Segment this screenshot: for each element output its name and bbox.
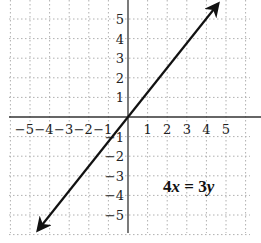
y-tick-label: 5 [116, 12, 124, 27]
x-tick-label: 1 [143, 122, 151, 137]
y-tick-label: −4 [105, 188, 124, 203]
x-tick-label: −4 [34, 122, 53, 137]
equation-label: 4x = 3y [163, 177, 215, 196]
x-tick-label: −3 [54, 122, 73, 137]
y-tick-label: 4 [116, 32, 124, 47]
y-tick-label: −5 [105, 208, 124, 223]
x-tick-label: 2 [163, 122, 171, 137]
x-tick-label: −2 [74, 122, 93, 137]
x-tick-label: 3 [183, 122, 191, 137]
y-tick-label: 2 [116, 71, 124, 86]
x-tick-label: 4 [202, 122, 210, 137]
y-tick-label: 3 [116, 51, 124, 66]
x-tick-label: −5 [15, 122, 34, 137]
y-tick-label: 1 [116, 90, 124, 105]
y-tick-label: −2 [105, 149, 124, 164]
y-tick-label: −3 [105, 169, 124, 184]
graph-line-4x-eq-3y [128, 4, 218, 117]
x-tick-label: 5 [222, 122, 230, 137]
coordinate-plane: −5−4−3−2−112345 54321−1−2−3−4−5 4x = 3y [0, 0, 261, 243]
